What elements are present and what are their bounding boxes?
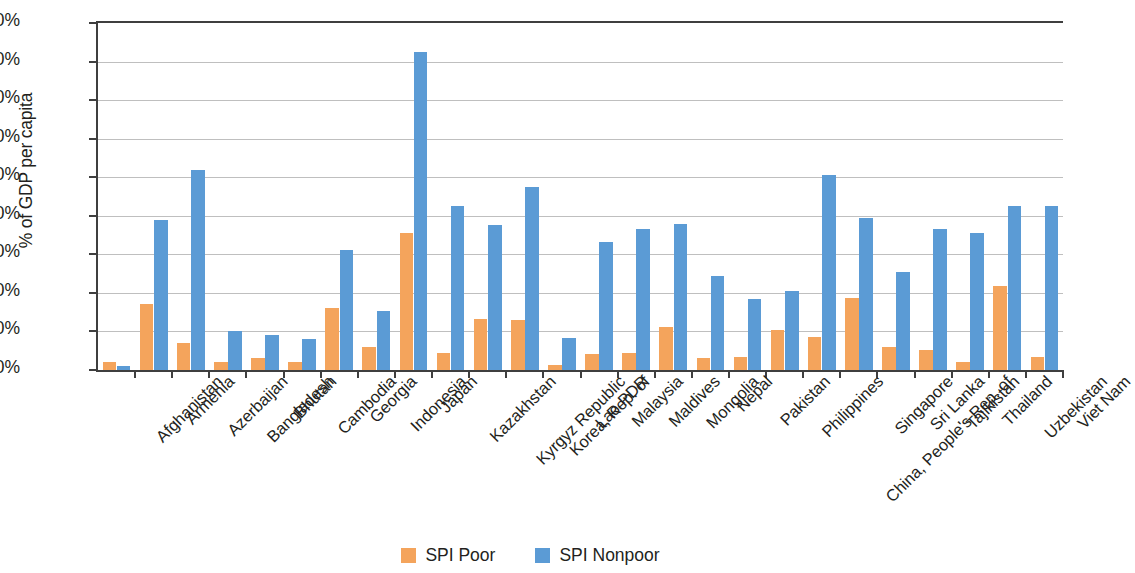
plot-area (96, 21, 1063, 372)
y-axis-tick-label: 5.0% (0, 164, 20, 185)
bar-group (1026, 23, 1063, 370)
bar-spi-poor[interactable] (214, 362, 228, 370)
chart-legend: SPI PoorSPI Nonpoor (0, 545, 1061, 566)
bar-group (581, 23, 618, 370)
bar-spi-poor[interactable] (474, 319, 488, 370)
bar-spi-nonpoor[interactable] (896, 272, 910, 370)
bar-group (432, 23, 469, 370)
y-axis-tick-label: 2.0% (0, 280, 20, 301)
bar-spi-poor[interactable] (177, 343, 191, 370)
bar-group (358, 23, 395, 370)
bar-spi-nonpoor[interactable] (636, 229, 650, 370)
bar-group (692, 23, 729, 370)
bar-spi-nonpoor[interactable] (1008, 206, 1022, 370)
bar-spi-nonpoor[interactable] (933, 229, 947, 370)
bar-group (729, 23, 766, 370)
x-axis-tick (1062, 370, 1064, 378)
x-axis-tick-label: Japan (436, 372, 481, 417)
bar-spi-poor[interactable] (400, 233, 414, 370)
bar-spi-nonpoor[interactable] (785, 291, 799, 370)
bar-spi-nonpoor[interactable] (265, 335, 279, 370)
bar-spi-poor[interactable] (734, 357, 748, 370)
bar-group (803, 23, 840, 370)
legend-swatch-nonpoor-icon (535, 548, 550, 563)
bar-spi-nonpoor[interactable] (748, 299, 762, 370)
bar-spi-nonpoor[interactable] (970, 233, 984, 370)
bar-spi-poor[interactable] (140, 304, 154, 370)
bar-spi-poor[interactable] (808, 337, 822, 370)
bar-spi-nonpoor[interactable] (711, 276, 725, 370)
bar-spi-nonpoor[interactable] (117, 366, 131, 370)
bar-spi-nonpoor[interactable] (377, 311, 391, 370)
bar-spi-poor[interactable] (103, 362, 117, 370)
bar-spi-poor[interactable] (919, 350, 933, 370)
bar-spi-nonpoor[interactable] (525, 187, 539, 370)
bar-spi-poor[interactable] (548, 365, 562, 370)
x-axis-tick-label: Nepal (733, 372, 777, 416)
legend-label: SPI Poor (425, 545, 495, 566)
bar-spi-poor[interactable] (511, 320, 525, 370)
y-axis-tick (89, 176, 98, 178)
bar-spi-nonpoor[interactable] (154, 220, 168, 370)
y-axis-tick-label: 0.0% (0, 357, 20, 378)
bar-spi-poor[interactable] (325, 308, 339, 370)
bar-group (321, 23, 358, 370)
y-axis-tick (89, 61, 98, 63)
bar-spi-nonpoor[interactable] (302, 339, 316, 370)
y-axis-tick (89, 253, 98, 255)
bar-spi-nonpoor[interactable] (562, 338, 576, 370)
bar-spi-poor[interactable] (697, 358, 711, 370)
y-axis-tick-label: 8.0% (0, 49, 20, 70)
legend-item[interactable]: SPI Nonpoor (535, 545, 659, 566)
bar-spi-nonpoor[interactable] (228, 331, 242, 370)
bar-group (284, 23, 321, 370)
bar-spi-poor[interactable] (659, 327, 673, 370)
y-axis-tick-label: 3.0% (0, 241, 20, 262)
bar-spi-nonpoor[interactable] (340, 250, 354, 370)
bar-group (989, 23, 1026, 370)
bar-spi-nonpoor[interactable] (822, 175, 836, 370)
bar-group (172, 23, 209, 370)
bar-spi-poor[interactable] (437, 353, 451, 370)
y-axis-tick-label: 6.0% (0, 126, 20, 147)
bar-spi-nonpoor[interactable] (451, 206, 465, 370)
bar-spi-poor[interactable] (845, 298, 859, 370)
bar-group (469, 23, 506, 370)
bar-spi-poor[interactable] (362, 347, 376, 370)
y-axis-tick-label: 4.0% (0, 203, 20, 224)
bar-spi-nonpoor[interactable] (488, 225, 502, 370)
bar-spi-poor[interactable] (288, 362, 302, 370)
legend-swatch-poor-icon (401, 548, 416, 563)
bar-spi-poor[interactable] (1031, 357, 1045, 370)
bar-spi-nonpoor[interactable] (674, 224, 688, 370)
bar-spi-poor[interactable] (771, 330, 785, 370)
bar-group (209, 23, 246, 370)
y-axis-tick-label: 1.0% (0, 318, 20, 339)
bar-group (952, 23, 989, 370)
bar-spi-nonpoor[interactable] (859, 218, 873, 370)
bar-group (506, 23, 543, 370)
bar-spi-nonpoor[interactable] (414, 52, 428, 370)
bar-group (395, 23, 432, 370)
bar-spi-nonpoor[interactable] (599, 242, 613, 370)
bar-spi-nonpoor[interactable] (191, 170, 205, 370)
y-axis-tick-label: 7.0% (0, 87, 20, 108)
bar-spi-poor[interactable] (251, 358, 265, 370)
legend-item[interactable]: SPI Poor (401, 545, 495, 566)
legend-label: SPI Nonpoor (559, 545, 659, 566)
y-axis-tick (89, 138, 98, 140)
y-axis-tick (89, 99, 98, 101)
bar-spi-poor[interactable] (993, 286, 1007, 370)
bar-spi-poor[interactable] (882, 347, 896, 370)
y-axis-tick (89, 215, 98, 217)
bar-spi-poor[interactable] (956, 362, 970, 370)
x-axis-tick-labels: AfghanistanArmeniaAzerbaijanBangladeshBh… (96, 372, 1061, 522)
bar-spi-poor[interactable] (585, 354, 599, 370)
bar-group (246, 23, 283, 370)
bar-group (877, 23, 914, 370)
bar-group (915, 23, 952, 370)
bar-spi-nonpoor[interactable] (1045, 206, 1059, 370)
x-axis-tick-label: Kazakhstan (486, 372, 560, 446)
bar-spi-poor[interactable] (622, 353, 636, 370)
